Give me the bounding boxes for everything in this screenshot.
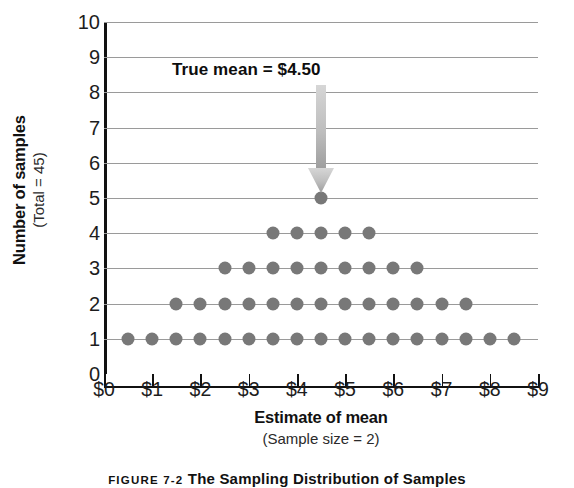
data-point [435, 297, 448, 310]
data-point [339, 297, 352, 310]
data-point [411, 332, 424, 345]
y-axis-label-group: Number of samples (Total = 45) [0, 0, 58, 380]
data-point [266, 227, 279, 240]
data-point [363, 262, 376, 275]
x-axis-sublabel: (Sample size = 2) [104, 430, 538, 448]
y-axis-ticks: 012345678910 [58, 0, 100, 380]
data-point [339, 332, 352, 345]
y-tick-label: 4 [66, 222, 100, 245]
data-point [290, 227, 303, 240]
data-point [435, 332, 448, 345]
figure-caption-text: The Sampling Distribution of Samples [188, 470, 466, 487]
y-tick-label: 8 [66, 81, 100, 104]
true-mean-arrow-icon [305, 85, 337, 197]
y-axis-sublabel: (Total = 45) [30, 115, 48, 265]
data-point [170, 297, 183, 310]
y-tick-label: 10 [66, 11, 100, 34]
data-point [242, 297, 255, 310]
data-point [146, 332, 159, 345]
y-tick-label: 5 [66, 187, 100, 210]
x-tick-label: $9 [512, 378, 564, 401]
data-point [315, 297, 328, 310]
data-point [387, 262, 400, 275]
data-point [339, 262, 352, 275]
figure-container: Number of samples (Total = 45) 012345678… [0, 0, 574, 488]
plot-area [104, 22, 538, 374]
x-tick-label: $4 [271, 378, 323, 401]
x-tick-label: $8 [464, 378, 516, 401]
data-point [266, 297, 279, 310]
gridline [104, 22, 538, 23]
x-axis-label: Estimate of mean [104, 408, 538, 428]
data-point [218, 262, 231, 275]
data-point [218, 297, 231, 310]
data-point [315, 262, 328, 275]
figure-caption-number: FIGURE 7-2 [108, 474, 183, 486]
x-tick-label: $5 [319, 378, 371, 401]
y-tick-label: 6 [66, 151, 100, 174]
gridline [104, 57, 538, 58]
data-point [363, 297, 376, 310]
data-point [194, 332, 207, 345]
y-tick-label: 9 [66, 46, 100, 69]
data-point [266, 332, 279, 345]
data-point [507, 332, 520, 345]
data-point [290, 297, 303, 310]
y-axis-label: Number of samples [10, 115, 29, 265]
x-tick-label: $1 [126, 378, 178, 401]
x-tick-label: $7 [416, 378, 468, 401]
data-point [483, 332, 496, 345]
data-point [242, 262, 255, 275]
x-tick-label: $6 [367, 378, 419, 401]
data-point [411, 297, 424, 310]
data-point [122, 332, 135, 345]
data-point [218, 332, 231, 345]
data-point [315, 227, 328, 240]
true-mean-annotation-label: True mean = $4.50 [172, 60, 321, 80]
data-point [363, 332, 376, 345]
x-tick-label: $0 [78, 378, 130, 401]
y-tick-label: 7 [66, 116, 100, 139]
data-point [387, 297, 400, 310]
data-point [459, 297, 472, 310]
data-point [411, 262, 424, 275]
data-point [363, 227, 376, 240]
data-point [170, 332, 183, 345]
data-point [459, 332, 472, 345]
x-tick-label: $3 [223, 378, 275, 401]
data-point [315, 332, 328, 345]
data-point [266, 262, 279, 275]
x-axis-label-group: Estimate of mean (Sample size = 2) [104, 408, 538, 448]
y-tick-label: 2 [66, 292, 100, 315]
y-tick-label: 1 [66, 327, 100, 350]
data-point [290, 262, 303, 275]
data-point [387, 332, 400, 345]
figure-caption: FIGURE 7-2 The Sampling Distribution of … [0, 470, 574, 487]
data-point [339, 227, 352, 240]
data-point [242, 332, 255, 345]
data-point [290, 332, 303, 345]
y-tick-label: 3 [66, 257, 100, 280]
x-tick-label: $2 [174, 378, 226, 401]
x-axis-ticks: $0$1$2$3$4$5$6$7$8$9 [104, 378, 538, 408]
data-point [194, 297, 207, 310]
